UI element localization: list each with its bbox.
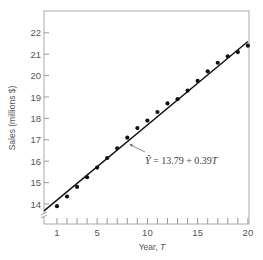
- data-point: [55, 204, 59, 208]
- data-point: [85, 175, 89, 179]
- data-point: [75, 185, 79, 189]
- data-point: [226, 54, 230, 58]
- plot-border: [44, 11, 249, 224]
- data-point: [206, 69, 210, 73]
- y-axis: 141516171819202122: [30, 27, 49, 209]
- annotation-arrow: [130, 145, 145, 152]
- y-tick-label: 18: [30, 113, 41, 124]
- data-point: [125, 136, 129, 140]
- data-point: [145, 118, 149, 122]
- y-tick-label: 17: [30, 134, 41, 145]
- regression-equation: Ŷ = 13.79 + 0.39T: [145, 155, 219, 166]
- y-tick-label: 19: [30, 92, 41, 103]
- data-point: [155, 110, 159, 114]
- y-tick-label: 15: [30, 177, 41, 188]
- plot-frame: [44, 11, 249, 224]
- data-point: [115, 146, 119, 150]
- x-tick-label: 15: [192, 227, 203, 238]
- y-tick-label: 21: [30, 49, 41, 60]
- x-tick-label: 10: [142, 227, 153, 238]
- data-point: [216, 61, 220, 65]
- data-point: [196, 79, 200, 83]
- y-tick-label: 22: [30, 27, 41, 38]
- regression-line: [44, 42, 248, 211]
- trend-line: [44, 42, 248, 211]
- data-point: [186, 88, 190, 92]
- data-point: [65, 194, 69, 198]
- data-point: [95, 166, 99, 170]
- x-tick-label: 5: [95, 227, 100, 238]
- y-axis-title: Sales (millions $): [7, 85, 17, 150]
- y-tick-label: 16: [30, 156, 41, 167]
- data-point: [236, 50, 240, 54]
- regression-annotation: Ŷ = 13.79 + 0.39T: [129, 144, 219, 166]
- data-point: [105, 156, 109, 160]
- data-point: [175, 97, 179, 101]
- x-axis-title: Year, T: [139, 242, 166, 252]
- data-point: [165, 101, 169, 105]
- x-tick-label: 1: [54, 227, 59, 238]
- x-tick-label: 20: [243, 227, 254, 238]
- y-tick-label: 14: [30, 199, 41, 210]
- x-axis: 15101520: [54, 218, 253, 238]
- chart: 141516171819202122 15101520 Ŷ = 13.79 + …: [0, 0, 263, 260]
- data-point: [246, 44, 250, 48]
- data-point: [135, 126, 139, 130]
- y-tick-label: 20: [30, 70, 41, 81]
- data-points: [55, 44, 250, 209]
